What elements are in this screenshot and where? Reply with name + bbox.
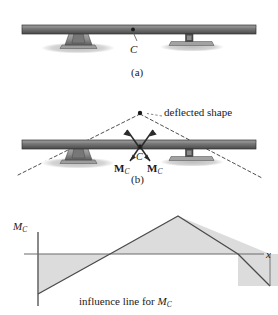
chart-y-axis-label-main: M <box>13 220 22 232</box>
roller-support-b <box>169 149 214 161</box>
chart-x-axis-label: x <box>266 249 271 260</box>
deflected-shape-leader <box>147 114 162 117</box>
chart-caption-symbol: M <box>158 295 167 307</box>
chart-y-axis-label: MC <box>13 221 27 233</box>
moment-label-left: MC <box>114 163 129 175</box>
point-c-label-b: C <box>136 152 143 162</box>
point-c-label-a: C <box>130 44 137 55</box>
figure-container: C (a) deflected shape C MC MC (b) MC x i… <box>0 0 278 315</box>
roller-support-a <box>169 34 214 46</box>
moment-label-right-main: M <box>147 162 157 174</box>
deflected-apex-dot <box>138 111 142 115</box>
chart-caption-prefix: influence line for <box>79 295 158 307</box>
moment-label-right: MC <box>147 163 162 175</box>
moment-label-left-main: M <box>114 162 124 174</box>
panel-a-label: (a) <box>131 67 143 78</box>
moment-label-left-subscript: C <box>124 167 129 176</box>
panel-c-chart <box>24 216 278 306</box>
chart-caption-symbol-subscript: C <box>167 300 172 309</box>
chart-caption: influence line for MC <box>79 296 172 308</box>
chart-shade-middle <box>110 216 270 254</box>
moment-label-right-subscript: C <box>157 167 162 176</box>
panel-b <box>18 111 262 178</box>
beam-a <box>22 25 256 34</box>
chart-y-axis-label-subscript: C <box>22 225 27 234</box>
panel-a <box>22 25 256 54</box>
panel-b-label: (b) <box>131 174 144 185</box>
point-c-marker-a <box>131 28 135 32</box>
deflected-shape-label: deflected shape <box>164 107 232 118</box>
